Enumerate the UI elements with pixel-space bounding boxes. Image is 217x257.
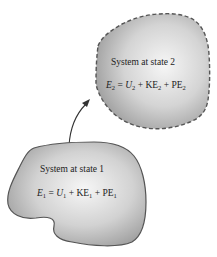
arrow-head-icon bbox=[82, 99, 90, 107]
state2-label: System at state 2 bbox=[111, 57, 175, 67]
state2-energy-equation: E2 = U2 + KE2 + PE2 bbox=[106, 80, 186, 90]
transition-arrow bbox=[69, 104, 86, 146]
state1-label: System at state 1 bbox=[40, 164, 104, 174]
diagram-canvas bbox=[0, 0, 217, 257]
state2-boundary bbox=[96, 14, 210, 129]
state1-energy-equation: E1 = U1 + KE1 + PE1 bbox=[37, 188, 117, 198]
